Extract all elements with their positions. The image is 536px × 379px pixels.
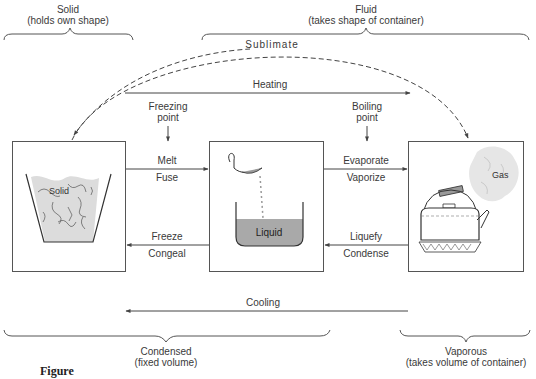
sublimate-label: Sublimate xyxy=(245,39,298,51)
boiling-point-line2: point xyxy=(356,112,378,124)
fluid-group-subtitle: (takes shape of container) xyxy=(308,15,424,27)
melt-label: Melt xyxy=(158,155,177,167)
liquid-beaker-icon: Liquid xyxy=(210,142,323,271)
liquid-inner-label: Liquid xyxy=(256,227,283,238)
freeze-label: Freeze xyxy=(151,231,182,243)
solid-state-box: Solid xyxy=(12,141,126,272)
liquid-state-box: Liquid xyxy=(209,141,324,272)
heating-label: Heating xyxy=(253,79,287,91)
liquefy-label: Liquefy xyxy=(350,231,382,243)
vaporous-brace xyxy=(400,330,530,342)
vaporize-label: Vaporize xyxy=(347,172,386,184)
gas-state-box: Gas xyxy=(408,141,524,272)
fuse-label: Fuse xyxy=(156,172,178,184)
kettle-steam-icon: Gas xyxy=(409,142,523,271)
freezing-point-line2: point xyxy=(157,112,179,124)
cooling-label: Cooling xyxy=(246,297,280,309)
solid-group-subtitle: (holds own shape) xyxy=(27,15,109,27)
gas-inner-label: Gas xyxy=(492,170,509,180)
condensed-brace xyxy=(4,330,330,342)
solid-brace xyxy=(4,28,133,40)
condensed-group-subtitle: (fixed volume) xyxy=(135,357,198,369)
sublimate-curve xyxy=(72,57,468,140)
condense-label: Condense xyxy=(343,248,389,260)
evaporate-label: Evaporate xyxy=(343,155,389,167)
congeal-label: Congeal xyxy=(148,248,185,260)
figure-caption: Figure xyxy=(40,364,74,379)
ice-bucket-icon: Solid xyxy=(13,142,125,271)
solid-inner-label: Solid xyxy=(49,186,69,196)
vaporous-group-subtitle: (takes volume of container) xyxy=(406,357,527,369)
